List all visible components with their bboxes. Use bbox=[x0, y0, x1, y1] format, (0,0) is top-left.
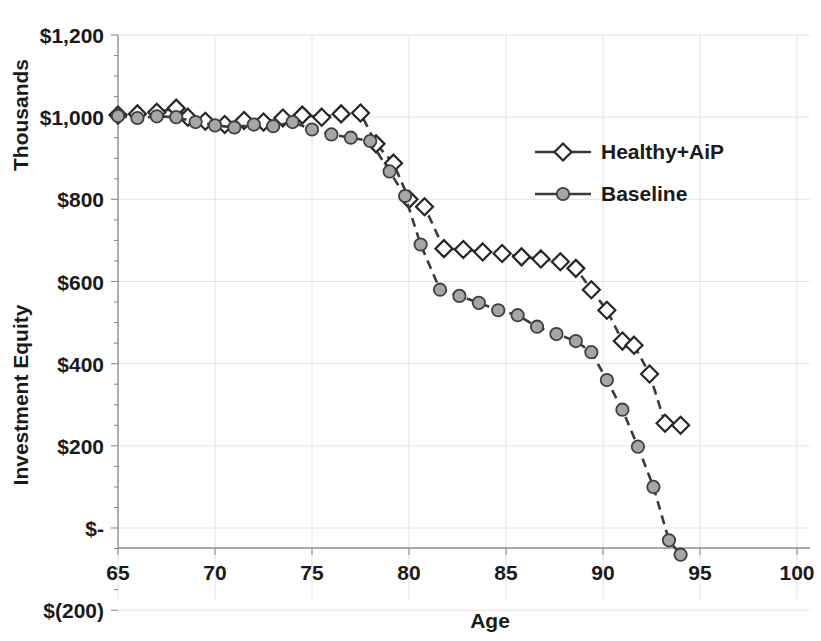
y-tick-label: $(200) bbox=[43, 599, 104, 622]
data-point-marker bbox=[570, 335, 582, 347]
data-point-marker bbox=[531, 320, 543, 332]
x-tick-label: 95 bbox=[688, 561, 712, 584]
x-tick-label: 80 bbox=[397, 561, 420, 584]
legend-marker-circle bbox=[557, 188, 569, 200]
data-point-marker bbox=[552, 253, 569, 270]
data-point-marker bbox=[567, 260, 584, 277]
data-point-marker bbox=[550, 328, 562, 340]
data-point-marker bbox=[325, 128, 337, 140]
investment-equity-chart: $(200)$-$200$400$600$800$1,000$1,200 657… bbox=[0, 0, 821, 641]
data-point-marker bbox=[414, 238, 426, 250]
data-point-marker bbox=[455, 241, 472, 258]
data-point-marker bbox=[131, 112, 143, 124]
y-tick-label: $600 bbox=[57, 271, 104, 294]
data-point-marker bbox=[209, 119, 221, 131]
x-tick-label: 75 bbox=[300, 561, 324, 584]
data-point-marker bbox=[674, 549, 686, 561]
x-tick-label: 85 bbox=[494, 561, 518, 584]
y-tick-labels: $(200)$-$200$400$600$800$1,000$1,200 bbox=[40, 24, 104, 622]
data-point-marker bbox=[399, 190, 411, 202]
data-point-marker bbox=[333, 105, 350, 122]
x-tick-label: 65 bbox=[106, 561, 130, 584]
data-point-marker bbox=[383, 165, 395, 177]
legend-label: Healthy+AiP bbox=[601, 140, 724, 163]
data-point-marker bbox=[492, 304, 504, 316]
data-point-marker bbox=[632, 440, 644, 452]
y-tick-label: $1,000 bbox=[40, 106, 104, 129]
data-point-marker bbox=[453, 290, 465, 302]
data-point-marker bbox=[435, 240, 452, 257]
data-point-marker bbox=[663, 534, 675, 546]
legend-label: Baseline bbox=[601, 182, 687, 205]
data-point-marker bbox=[657, 415, 674, 432]
data-point-marker bbox=[364, 135, 376, 147]
data-point-marker bbox=[151, 110, 163, 122]
data-point-marker bbox=[352, 105, 369, 122]
chart-canvas: $(200)$-$200$400$600$800$1,000$1,200 657… bbox=[0, 0, 821, 641]
x-tick-label: 100 bbox=[779, 561, 814, 584]
legend-item[interactable]: Healthy+AiP bbox=[535, 140, 724, 163]
data-point-marker bbox=[474, 243, 491, 260]
data-point-marker bbox=[112, 110, 124, 122]
data-point-marker bbox=[228, 121, 240, 133]
data-point-marker bbox=[473, 297, 485, 309]
data-point-marker bbox=[641, 365, 658, 382]
data-point-marker bbox=[494, 245, 511, 262]
data-point-marker bbox=[601, 374, 613, 386]
data-point-marker bbox=[434, 284, 446, 296]
data-point-marker bbox=[170, 111, 182, 123]
data-point-marker bbox=[583, 281, 600, 298]
chart-legend: Healthy+AiPBaseline bbox=[520, 128, 735, 210]
units-axis-label: Thousands bbox=[9, 59, 32, 171]
y-tick-label: $1,200 bbox=[40, 24, 104, 47]
data-point-marker bbox=[616, 403, 628, 415]
data-point-marker bbox=[248, 118, 260, 130]
data-point-marker bbox=[511, 309, 523, 321]
x-tick-label: 70 bbox=[203, 561, 226, 584]
data-point-marker bbox=[513, 248, 530, 265]
y-tick-label: $- bbox=[85, 517, 104, 540]
x-tick-labels: 65707580859095100 bbox=[106, 561, 814, 584]
y-tick-label: $200 bbox=[57, 435, 104, 458]
data-point-marker bbox=[286, 116, 298, 128]
data-point-marker bbox=[647, 481, 659, 493]
data-point-marker bbox=[306, 123, 318, 135]
y-axis-title: Investment Equity bbox=[9, 304, 32, 485]
x-axis-title: Age bbox=[470, 609, 510, 632]
y-tick-label: $400 bbox=[57, 353, 104, 376]
data-point-marker bbox=[267, 120, 279, 132]
data-point-marker bbox=[313, 109, 330, 126]
data-point-marker bbox=[585, 346, 597, 358]
data-point-marker bbox=[672, 417, 689, 434]
data-point-marker bbox=[345, 132, 357, 144]
y-tick-label: $800 bbox=[57, 188, 104, 211]
x-tick-label: 90 bbox=[591, 561, 614, 584]
data-point-marker bbox=[416, 198, 433, 215]
data-point-marker bbox=[532, 250, 549, 267]
data-point-marker bbox=[189, 116, 201, 128]
